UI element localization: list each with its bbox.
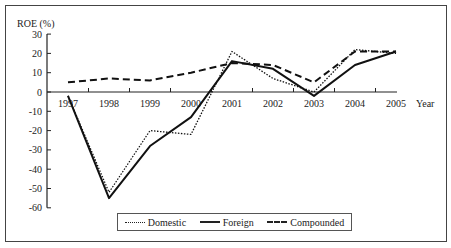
y-tick-label: -40 <box>29 164 42 175</box>
y-tick-label: 20 <box>32 48 42 59</box>
legend-label: Foreign <box>223 217 254 228</box>
x-tick-label: 1997 <box>58 98 78 109</box>
dashed-line-icon <box>267 221 287 223</box>
series-line-compounded <box>68 51 396 82</box>
x-axis: 199719981999200020012002200320042005 <box>47 88 406 109</box>
y-tick-label: 0 <box>37 87 42 98</box>
y-tick-label: -20 <box>29 125 42 136</box>
dotted-line-icon <box>125 222 145 223</box>
y-axis: 3020100-10-20-30-40-50-60 <box>29 29 51 214</box>
series-lines <box>68 50 396 199</box>
legend-item-compounded: Compounded <box>267 217 344 228</box>
x-tick-label: 2005 <box>386 98 406 109</box>
x-axis-title: Year <box>416 98 435 109</box>
legend-item-foreign: Foreign <box>200 217 254 228</box>
series-line-foreign <box>68 51 396 198</box>
x-tick-label: 2004 <box>345 98 365 109</box>
solid-line-icon <box>200 221 220 223</box>
x-tick-label: 1999 <box>140 98 160 109</box>
x-tick-label: 2003 <box>304 98 324 109</box>
x-tick-label: 2002 <box>263 98 283 109</box>
legend-item-domestic: Domestic <box>125 217 186 228</box>
x-tick-label: 2001 <box>222 98 242 109</box>
legend-label: Compounded <box>290 217 344 228</box>
line-chart: 3020100-10-20-30-40-50-60 19971998199920… <box>0 0 451 248</box>
legend-label: Domestic <box>148 217 186 228</box>
y-tick-label: -50 <box>29 183 42 194</box>
y-axis-title: ROE (%) <box>17 18 55 30</box>
y-tick-label: -30 <box>29 144 42 155</box>
x-tick-label: 1998 <box>99 98 119 109</box>
legend: Domestic Foreign Compounded <box>117 213 352 231</box>
y-tick-label: 30 <box>32 29 42 40</box>
y-tick-label: -60 <box>29 202 42 213</box>
y-tick-label: 10 <box>32 67 42 78</box>
y-tick-label: -10 <box>29 106 42 117</box>
